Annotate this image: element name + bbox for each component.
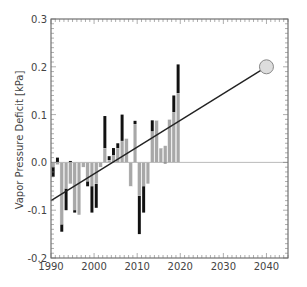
bar-black [116, 143, 119, 148]
bar-black [142, 186, 145, 212]
bar-gray [137, 162, 141, 195]
bar-gray [64, 162, 68, 188]
y-tick-label: 0.2 [31, 62, 47, 73]
bar-black [86, 182, 89, 187]
bar-gray [103, 148, 107, 162]
bar-black [90, 186, 93, 212]
bar-gray [120, 141, 124, 163]
bar-black [177, 64, 180, 93]
bar-gray [176, 93, 180, 162]
x-tick-label: 2010 [124, 261, 149, 272]
bar-black [56, 158, 59, 163]
bar-gray [99, 162, 103, 167]
y-tick-label: 0.0 [31, 157, 47, 168]
bar-black [138, 196, 141, 234]
bar-gray [69, 162, 73, 184]
y-tick-label: 0.1 [31, 110, 47, 121]
x-tick-labels: 199020002010202020302040 [38, 261, 279, 272]
bar-gray [125, 139, 129, 163]
bar-black [60, 225, 63, 232]
vpd-chart: 199020002010202020302040 -0.2-0.10.00.10… [0, 0, 307, 287]
x-tick-label: 2040 [254, 261, 279, 272]
bar-black [134, 121, 137, 124]
bar-gray [172, 112, 176, 162]
x-tick-label: 2020 [168, 261, 193, 272]
bar-gray [77, 162, 81, 215]
bar-black [73, 210, 76, 212]
bar-black [121, 115, 124, 141]
bar-gray [155, 120, 159, 162]
bar-gray [129, 162, 133, 186]
bar-black [112, 148, 115, 155]
bar-gray [81, 162, 85, 167]
y-tick-label: -0.1 [27, 205, 47, 216]
x-tick-label: 2030 [211, 261, 236, 272]
bar-gray [163, 146, 167, 163]
y-axis-label: Vapor Pressure Deficit [kPa] [14, 71, 25, 210]
bar-gray [133, 124, 137, 162]
bar-gray [142, 162, 146, 186]
projection-circle [259, 60, 273, 74]
x-tick-label: 2000 [81, 261, 106, 272]
bar-gray [146, 162, 150, 184]
bar-gray [51, 162, 55, 167]
projection-marker [259, 60, 273, 74]
bar-black [108, 156, 111, 160]
y-tick-label: 0.3 [31, 14, 47, 25]
bar-black [172, 95, 175, 112]
y-tick-label: -0.2 [27, 253, 47, 264]
bar-black [103, 116, 106, 148]
bar-gray [159, 148, 163, 162]
y-tick-labels: -0.2-0.10.00.10.20.3 [27, 14, 47, 264]
bar-gray [150, 131, 154, 162]
bar-black [151, 120, 154, 131]
bar-black [95, 184, 98, 208]
